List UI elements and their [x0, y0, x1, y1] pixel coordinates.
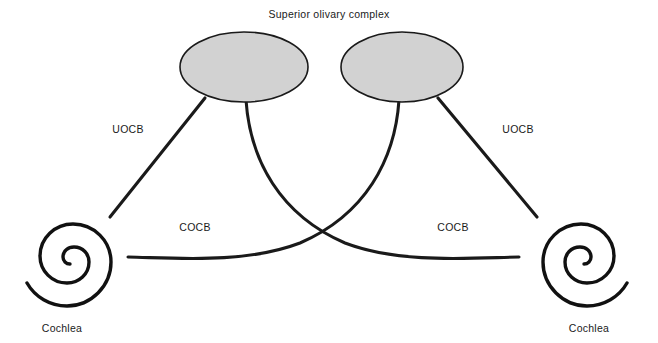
pathway-uocb-left — [110, 98, 205, 217]
pathway-label-uocb-left: UOCB — [112, 123, 143, 135]
pathway-cocb-left-to-right-cochlea — [246, 100, 519, 259]
pathway-label-uocb-right: UOCB — [502, 123, 533, 135]
auditory-efferent-pathway-diagram: Superior olivary complex UOCB UOCB COCB … — [0, 0, 658, 343]
organ-label-cochlea-right: Cochlea — [569, 322, 609, 334]
cochlea-right-spiral — [543, 224, 627, 306]
pathway-label-cocb-right: COCB — [437, 221, 468, 233]
nucleus-left-superior-olivary-complex — [180, 32, 308, 102]
pathway-label-cocb-left: COCB — [179, 221, 210, 233]
pathway-cocb-right-to-left-cochlea — [128, 100, 399, 259]
page-title: Superior olivary complex — [269, 8, 390, 20]
nucleus-right-superior-olivary-complex — [341, 32, 463, 102]
pathway-uocb-right — [438, 98, 537, 217]
cochlea-left-spiral — [27, 224, 111, 306]
organ-label-cochlea-left: Cochlea — [42, 322, 82, 334]
diagram-canvas: Superior olivary complex UOCB UOCB COCB … — [0, 0, 658, 343]
